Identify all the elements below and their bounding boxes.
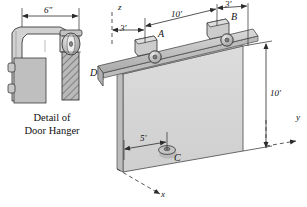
point-label-C: C [174,153,181,163]
detail-wheel-hub [69,42,72,47]
point-label-A: A [158,29,164,39]
dimension-guide-5ft: 5' [140,134,146,143]
detail-door-edge [14,58,46,103]
detail-caption-line2: Door Hanger [0,125,104,137]
ext-bot-right [243,146,272,151]
axis-y-line [266,141,296,146]
detail-caption-line1: Detail of [0,112,104,124]
door-hanger-detail [8,8,82,103]
axis-label-z: z [118,3,122,12]
point-label-D: D [90,68,97,78]
axis-label-y: y [296,113,300,122]
dimension-right-3ft: 3' [225,0,231,9]
dimension-span-10ft: 10' [171,10,182,19]
dimension-height-10ft: 10' [270,89,281,98]
detail-bolt-upper [8,63,15,72]
figure-canvas [0,0,307,207]
point-label-B: B [231,12,237,22]
detail-width-dimension: 6" [44,6,52,15]
main-isometric-view [98,3,296,194]
detail-bolt-lower [8,84,15,93]
axis-x-line [117,169,160,194]
hanger-B-hub [225,38,229,42]
axis-label-x: x [161,190,165,199]
dim-right-3ft [218,6,247,8]
hanger-A-hub [153,55,157,59]
dimension-left-3ft: 3' [120,24,126,33]
engineering-figure: 6" Detail of Door Hanger z y x A B C D 3… [0,0,307,207]
door-panel-left-edge [117,72,123,172]
detail-hatched-post [62,52,79,100]
